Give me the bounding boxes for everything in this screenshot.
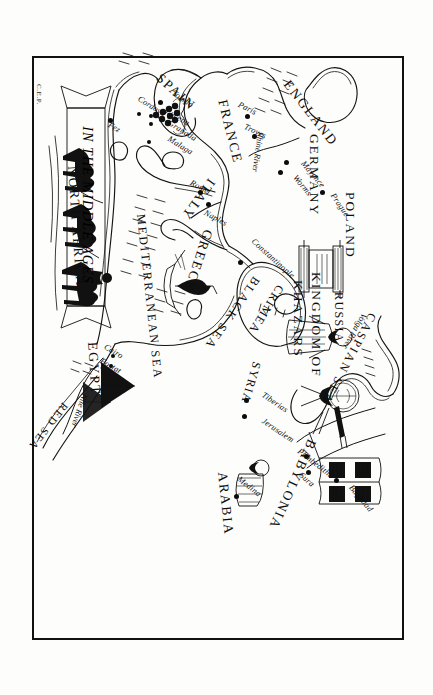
city-dot-worms bbox=[278, 170, 283, 175]
city-dot-constantinople bbox=[238, 260, 243, 265]
map-page: IN THE MIDDLE AGES C.E.P. CASPIAN SEA BL… bbox=[0, 0, 433, 695]
city-dot-cordova bbox=[137, 112, 141, 116]
label-poland: POLAND bbox=[343, 192, 357, 259]
city-dot-medina bbox=[234, 494, 239, 499]
label-egypt: EGYPT bbox=[85, 341, 102, 395]
city-dot-mayence bbox=[284, 160, 289, 165]
city-dot-baghdad bbox=[334, 478, 339, 483]
label-kingdom-of-khazars-line1: KINGDOM OF bbox=[309, 272, 323, 378]
city-dot-granada bbox=[149, 122, 153, 126]
city-dot-jerusalem bbox=[242, 414, 247, 419]
city-dot-tiberias bbox=[244, 398, 249, 403]
artist-signature: C.E.P. bbox=[35, 84, 43, 105]
map-rotation-wrapper: IN THE MIDDLE AGES C.E.P. CASPIAN SEA BL… bbox=[19, 42, 415, 654]
city-dot-malaga bbox=[147, 140, 151, 144]
label-russia: RUSSIA bbox=[333, 292, 345, 343]
map-sheet: IN THE MIDDLE AGES C.E.P. CASPIAN SEA BL… bbox=[19, 42, 415, 654]
city-dot-prague bbox=[320, 190, 325, 195]
city-dot-lucena bbox=[149, 114, 153, 118]
label-kingdom-of-khazars-line2: KHAZARS bbox=[291, 280, 305, 358]
city-dot-naples bbox=[206, 202, 211, 207]
